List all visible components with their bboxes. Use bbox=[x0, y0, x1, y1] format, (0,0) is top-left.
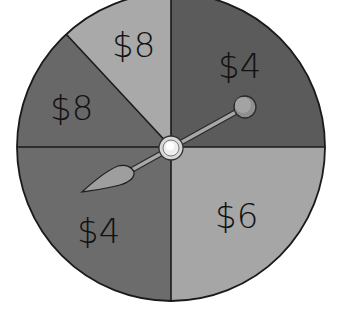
label-bottom-right: $6 bbox=[215, 196, 258, 236]
spinner-diagram: $4 $6 $4 $8 $8 bbox=[0, 0, 339, 309]
center-hub-highlight bbox=[166, 142, 174, 150]
pointer-knob-highlight bbox=[235, 97, 251, 113]
label-top-right: $4 bbox=[218, 46, 261, 86]
label-top-left: $8 bbox=[112, 25, 155, 65]
label-bottom-left: $4 bbox=[77, 211, 120, 251]
label-left: $8 bbox=[50, 88, 93, 128]
